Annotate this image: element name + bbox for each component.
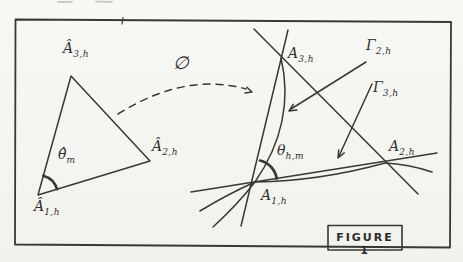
chord-line-a1-a2 — [191, 153, 437, 192]
label-left-vertex-a3: Â3,h — [63, 41, 89, 59]
scan-artifact-marks — [58, 2, 112, 3]
figure-caption: FIGURE 1 — [329, 231, 401, 257]
label-sub: 2,h — [162, 147, 178, 157]
label-sub: h,m — [285, 151, 304, 161]
label-main: Γ — [373, 79, 383, 95]
label-right-vertex-a1: A1,h — [261, 188, 287, 206]
label-sub: 1,h — [271, 196, 287, 206]
label-edge-gamma3: Γ3,h — [373, 80, 399, 98]
left-triangle-outline — [38, 76, 150, 195]
label-main: Â — [63, 40, 73, 56]
label-left-vertex-a1: Â1,h — [34, 199, 60, 217]
label-left-angle-theta: θ̂m — [58, 147, 75, 165]
label-main: A — [261, 187, 271, 203]
figure-scan: Â3,h Â2,h Â1,h θ̂m ∅ A3,h Γ2,h Γ3,h A2,h… — [0, 0, 463, 262]
label-sub: 3,h — [298, 54, 314, 64]
phi-arrow-head — [245, 87, 252, 93]
label-main: Â — [34, 198, 44, 214]
label-phi-map: ∅ — [173, 54, 189, 72]
left-angle-arc — [43, 176, 57, 190]
label-sub: 1,h — [44, 207, 60, 217]
label-sub: 3,h — [73, 49, 89, 59]
label-right-vertex-a2: A2,h — [389, 139, 415, 157]
gamma2-arrow-shaft — [291, 62, 366, 109]
label-main: Γ — [366, 37, 376, 53]
label-edge-gamma2: Γ2,h — [366, 38, 392, 56]
label-sub: 3,h — [383, 88, 399, 98]
frame-tick — [122, 18, 123, 25]
phi-arrow-dashed-curve — [118, 84, 246, 114]
label-main: A — [288, 45, 298, 61]
geodesic-edge-a1-a2 — [200, 163, 432, 211]
label-sub: 2,h — [399, 147, 415, 157]
label-sub: 2,h — [376, 46, 392, 56]
label-main: A — [389, 138, 399, 154]
label-main: Â — [152, 138, 162, 154]
label-left-vertex-a2: Â2,h — [152, 139, 178, 157]
label-right-vertex-a3: A3,h — [288, 46, 314, 64]
label-right-angle-theta: θh,m — [277, 143, 304, 161]
label-main: ∅ — [173, 52, 189, 73]
label-sub: m — [66, 155, 75, 165]
